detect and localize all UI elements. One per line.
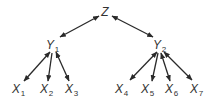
- edge-y1-x2: [48, 53, 52, 81]
- node-x7-subscript: 7: [199, 89, 204, 98]
- node-x6-subscript: 6: [174, 89, 179, 98]
- node-x4-subscript: 4: [124, 89, 129, 98]
- node-z: Z: [100, 5, 109, 19]
- node-x3: X: [64, 82, 74, 96]
- node-x2: X: [39, 82, 49, 96]
- node-x5: X: [140, 82, 150, 96]
- node-x1: X: [11, 82, 21, 96]
- node-x1-subscript: 1: [21, 89, 26, 98]
- factor-tree-diagram: ZY1Y2X1X2X3X4X5X6X7: [0, 0, 210, 101]
- node-y2: Y: [153, 38, 162, 52]
- edge-y2-x5: [152, 53, 158, 81]
- node-x6: X: [164, 82, 174, 96]
- edge-y1-x3: [56, 52, 69, 81]
- edge-y1-x1: [24, 52, 50, 81]
- node-x4: X: [114, 82, 124, 96]
- edge-z-y2: [112, 16, 153, 37]
- node-x2-subscript: 2: [49, 89, 54, 98]
- node-y1: Y: [46, 38, 55, 52]
- edge-z-y1: [60, 16, 99, 37]
- node-x5-subscript: 5: [150, 89, 155, 98]
- node-y1-subscript: 1: [55, 45, 60, 54]
- node-y2-subscript: 2: [162, 45, 167, 54]
- node-x3-subscript: 3: [74, 89, 79, 98]
- node-x7: X: [189, 82, 199, 96]
- labels-group: ZY1Y2X1X2X3X4X5X6X7: [11, 5, 204, 98]
